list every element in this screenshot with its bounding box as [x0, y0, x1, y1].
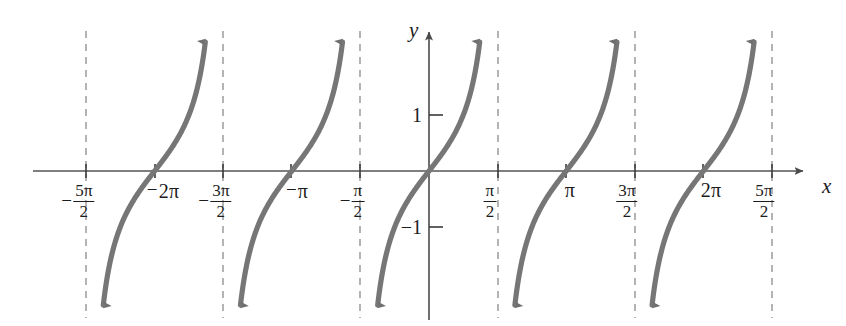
minus-sign: − [198, 191, 209, 210]
fraction-numerator: 3π [616, 182, 637, 202]
x-tick-label-neg-5pi-over-2: − 5π 2 [61, 182, 94, 221]
tick-text: π [298, 181, 308, 201]
fraction-numerator: 3π [210, 182, 231, 202]
fraction-denominator: 2 [217, 202, 226, 221]
fraction: 5π 2 [73, 182, 94, 221]
tangent-branch [652, 42, 754, 305]
fraction-numerator: π [484, 182, 497, 202]
fraction-numerator: 5π [753, 182, 774, 202]
tick-text: 2π [701, 179, 722, 201]
fraction: 3π 2 [616, 182, 637, 221]
x-tick-label-pi: π [565, 180, 575, 200]
x-tick-label-neg-2pi: − 2π [147, 180, 179, 201]
minus-sign: − [286, 180, 297, 199]
minus-sign: − [340, 191, 351, 210]
fraction: π 2 [352, 182, 365, 221]
x-tick-label-three-pi-over-2: 3π 2 [616, 182, 637, 221]
tangent-branch [240, 42, 342, 305]
x-tick-label-two-pi: 2π [701, 180, 722, 200]
x-tick-label-neg-pi-over-2: − π 2 [340, 182, 365, 221]
tangent-function-graph: − 5π 2 − 2π − 3π 2 − π − [0, 0, 846, 326]
x-tick-label-pi-over-2: π 2 [484, 182, 497, 221]
fraction-denominator: 2 [623, 202, 632, 221]
fraction-denominator: 2 [760, 202, 769, 221]
x-axis-label: x [822, 176, 831, 197]
fraction-denominator: 2 [486, 202, 495, 221]
y-axis-label: y [409, 20, 418, 41]
x-tick-label-neg-pi: − π [286, 180, 308, 201]
minus-sign: − [61, 191, 72, 210]
y-tick-label-one: 1 [412, 105, 422, 125]
tick-text: 2π [159, 181, 180, 201]
x-tick-label-neg-3pi-over-2: − 3π 2 [198, 182, 231, 221]
fraction: π 2 [484, 182, 497, 221]
fraction-numerator: 5π [73, 182, 94, 202]
fraction-numerator: π [352, 182, 365, 202]
minus-sign: − [147, 180, 158, 199]
x-tick-label-five-pi-over-2: 5π 2 [753, 182, 774, 221]
tangent-branch [515, 42, 617, 305]
tangent-branch [103, 42, 205, 305]
tick-text: π [565, 179, 575, 201]
plot-area [0, 0, 846, 326]
fraction-denominator: 2 [354, 202, 363, 221]
fraction-denominator: 2 [80, 202, 89, 221]
fraction: 3π 2 [210, 182, 231, 221]
fraction: 5π 2 [753, 182, 774, 221]
y-tick-label-neg-one: −1 [401, 217, 422, 237]
